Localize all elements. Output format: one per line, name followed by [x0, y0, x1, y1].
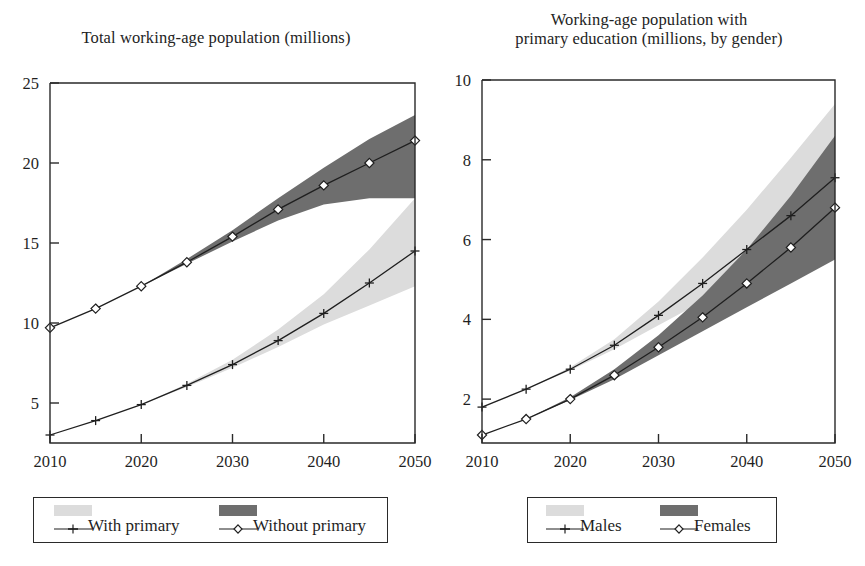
- panel-total-working-age-population: Total working-age population (millions) …: [0, 0, 432, 566]
- svg-text:2010: 2010: [34, 452, 67, 471]
- legend-keyline-diamond: [219, 523, 257, 535]
- svg-text:2020: 2020: [125, 452, 158, 471]
- svg-text:2030: 2030: [216, 452, 249, 471]
- legend-keyline-plus-males: [546, 523, 584, 535]
- svg-text:2040: 2040: [730, 452, 763, 471]
- plot-left: 51015202520102020203020402050: [0, 0, 432, 480]
- svg-text:6: 6: [463, 231, 471, 250]
- svg-text:2: 2: [463, 390, 471, 409]
- svg-text:5: 5: [31, 394, 39, 413]
- plot-right: 24681020102020203020402050: [433, 0, 865, 480]
- svg-text:10: 10: [23, 314, 40, 333]
- panel-primary-education-by-gender: Working-age population with primary educ…: [433, 0, 865, 566]
- svg-text:8: 8: [463, 151, 471, 170]
- legend-swatch-light-males: [546, 505, 584, 516]
- svg-text:20: 20: [23, 154, 40, 173]
- legend-label-without-primary: Without primary: [253, 516, 366, 536]
- svg-text:2050: 2050: [399, 452, 432, 471]
- svg-text:2040: 2040: [307, 452, 340, 471]
- legend-label-females: Females: [694, 516, 751, 536]
- uncertainty-bands-left: [50, 115, 415, 435]
- legend-swatch-dark-females: [660, 505, 698, 516]
- svg-text:2050: 2050: [819, 452, 852, 471]
- svg-text:25: 25: [23, 74, 40, 93]
- svg-text:15: 15: [23, 234, 40, 253]
- svg-text:2010: 2010: [466, 452, 499, 471]
- legend-swatch-light: [54, 505, 92, 516]
- svg-text:2020: 2020: [554, 452, 587, 471]
- legend-keyline-diamond-females: [660, 523, 698, 535]
- legend-right: Males Females: [527, 497, 777, 543]
- svg-text:10: 10: [455, 71, 472, 90]
- legend-swatch-dark: [219, 505, 257, 516]
- svg-text:2030: 2030: [642, 452, 675, 471]
- svg-text:4: 4: [463, 310, 471, 329]
- legend-label-males: Males: [580, 516, 622, 536]
- two-panel-chart-figure: Total working-age population (millions) …: [0, 0, 865, 566]
- legend-left: With primary Without primary: [33, 497, 388, 543]
- legend-keyline-plus: [54, 523, 92, 535]
- legend-label-with-primary: With primary: [88, 516, 179, 536]
